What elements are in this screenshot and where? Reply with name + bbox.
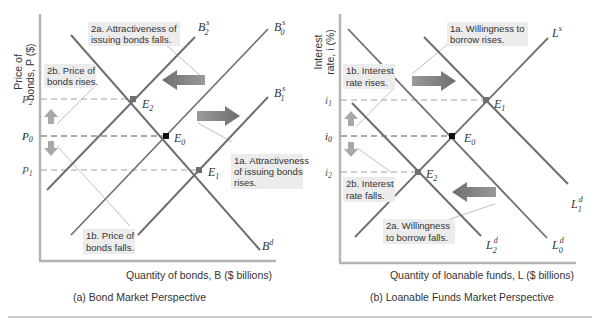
svg-text:1b. Interest: 1b. Interest: [346, 65, 394, 76]
callout-2a: 2a. Willingness to borrow falls.: [383, 219, 455, 244]
leader-1a: [198, 123, 232, 142]
panel-loanable-funds-market: Interest rate, i (%) i1 i0 i2 Ls Ld1 Ld0…: [312, 14, 584, 303]
rate-up-arrow-icon: [344, 111, 358, 126]
callout-1b: 1b. Price of bonds falls.: [83, 229, 135, 254]
callout-1a: 1a. Willingness to borrow rises.: [447, 22, 528, 46]
shift-left-arrow-icon: [162, 70, 205, 90]
point-e1: [483, 97, 489, 103]
svg-text:of issuing bonds: of issuing bonds: [234, 166, 303, 177]
curve-b2s: [47, 37, 195, 190]
svg-text:bonds falls.: bonds falls.: [86, 242, 134, 253]
svg-text:2a. Attractiveness of: 2a. Attractiveness of: [91, 23, 177, 34]
leader-1b: [357, 88, 394, 126]
svg-text:1a. Attractiveness: 1a. Attractiveness: [234, 155, 309, 166]
callout-1a: 1a. Attractiveness of issuing bonds rise…: [231, 154, 309, 189]
tick-i0: i0: [325, 130, 332, 144]
svg-text:to borrow falls.: to borrow falls.: [386, 232, 448, 243]
shift-left-arrow-icon: [452, 182, 496, 202]
leader-1b: [57, 146, 130, 226]
label-e0: E0: [463, 131, 475, 147]
point-e0: [449, 133, 455, 139]
label-l1d: Ld1: [570, 195, 584, 214]
x-axis-label: Quantity of loanable funds, L ($ billion…: [390, 269, 574, 281]
shift-right-arrow-icon: [197, 106, 240, 126]
rate-down-arrow-icon: [344, 142, 358, 157]
panel-caption-b: (b) Loanable Funds Market Perspective: [370, 291, 554, 303]
leader-1a: [412, 43, 449, 74]
y-axis-label-line1: Interest: [312, 34, 324, 69]
label-l2d: Ld2: [485, 236, 499, 255]
leader-2b: [357, 148, 391, 172]
svg-text:1b. Price of: 1b. Price of: [86, 230, 134, 241]
callout-2a: 2a. Attractiveness of issuing bonds fall…: [88, 22, 180, 46]
svg-text:rate falls.: rate falls.: [346, 190, 385, 201]
point-e1: [196, 167, 202, 173]
point-e2: [415, 169, 421, 175]
point-e2: [130, 96, 136, 102]
svg-text:issuing bonds falls.: issuing bonds falls.: [91, 34, 171, 45]
label-l0d: Ld0: [551, 236, 565, 255]
callout-2b: 2b. Price of bonds rises.: [44, 64, 98, 88]
shift-right-arrow-icon: [412, 71, 456, 91]
tick-i2: i2: [325, 166, 332, 180]
svg-text:1a. Willingness to: 1a. Willingness to: [450, 23, 524, 34]
point-e0: [163, 133, 169, 139]
label-b0s: Bs0: [274, 18, 285, 37]
label-e2: E2: [425, 167, 437, 183]
tick-p1: P1: [21, 164, 33, 178]
label-e1: E1: [493, 97, 505, 113]
figure-canvas: Price of bonds, P ($) P2 P0 P1 Bs2 Bs0 B…: [0, 0, 599, 325]
panel-caption-a: (a) Bond Market Perspective: [73, 291, 206, 303]
svg-text:borrow rises.: borrow rises.: [450, 34, 504, 45]
svg-text:2b. Price of: 2b. Price of: [47, 65, 95, 76]
label-e1: E1: [207, 165, 219, 181]
price-down-arrow-icon: [44, 141, 58, 156]
label-bd: Bd: [262, 238, 274, 253]
y-axis-label-line2: rate, i (%): [324, 29, 336, 75]
label-e0: E0: [173, 131, 185, 147]
price-up-arrow-icon: [44, 109, 58, 124]
callout-2b: 2b. Interest rate falls.: [343, 177, 395, 202]
svg-text:bonds rises.: bonds rises.: [47, 76, 98, 87]
svg-text:2a. Willingness: 2a. Willingness: [386, 220, 450, 231]
tick-i1: i1: [325, 94, 332, 108]
label-b1s: Bs1: [274, 84, 285, 103]
curve-b0s: [71, 29, 268, 235]
label-ls: Ls: [551, 24, 562, 40]
label-b2s: Bs2: [198, 18, 209, 37]
svg-text:rises.: rises.: [234, 177, 257, 188]
y-axis-label-line1: Price of: [12, 54, 24, 90]
panel-bond-market: Price of bonds, P ($) P2 P0 P1 Bs2 Bs0 B…: [12, 14, 309, 303]
leader-2b: [57, 88, 93, 124]
svg-text:2b. Interest: 2b. Interest: [346, 178, 394, 189]
svg-text:rate rises.: rate rises.: [346, 77, 388, 88]
tick-p0: P0: [21, 130, 33, 144]
y-axis-label-line2: bonds, P ($): [24, 43, 36, 100]
x-axis-label: Quantity of bonds, B ($ billions): [126, 269, 272, 281]
callout-1b: 1b. Interest rate rises.: [343, 64, 395, 89]
label-e2: E2: [141, 97, 153, 113]
